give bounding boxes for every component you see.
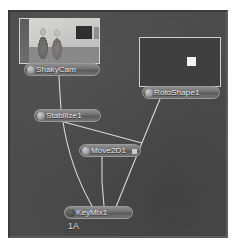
wire-stabilize1-to-keymix1: [63, 122, 92, 206]
node-move2d1[interactable]: Move2D1: [79, 144, 141, 157]
wire-stabilize1-to-move2d1: [64, 122, 142, 143]
rotoshape-thumbnail[interactable]: [139, 37, 221, 87]
node-label: Stabilize1: [46, 111, 82, 120]
node-label: RotoShape1: [154, 88, 199, 97]
node-handle-icon[interactable]: [82, 147, 90, 155]
roto-matte-square: [187, 57, 196, 66]
view-id-label: 1A: [68, 221, 79, 232]
node-handle-icon[interactable]: [145, 89, 153, 97]
node-handle-icon[interactable]: [67, 209, 75, 217]
node-shakycam[interactable]: ShakyCam: [24, 63, 100, 76]
node-stabilize1[interactable]: Stabilize1: [34, 109, 101, 122]
node-keymix1[interactable]: KeyMix1: [64, 206, 133, 219]
node-handle-icon[interactable]: [27, 66, 35, 74]
thumbnail-border: [19, 18, 100, 64]
node-graph-screenshot: ShakyCam RotoShape1 Stabilize1 Move2D1 K…: [0, 0, 236, 246]
node-label: KeyMix1: [76, 208, 107, 217]
thumbnail-border: [139, 37, 221, 87]
node-rotoshape1[interactable]: RotoShape1: [142, 86, 220, 99]
node-state-chip-icon[interactable]: [132, 149, 137, 154]
shakycam-thumbnail[interactable]: [19, 18, 100, 64]
wire-move2d1-to-keymix1: [102, 157, 104, 206]
node-handle-icon[interactable]: [37, 112, 45, 120]
node-graph-canvas[interactable]: ShakyCam RotoShape1 Stabilize1 Move2D1 K…: [8, 10, 228, 238]
node-label: Move2D1: [91, 146, 126, 155]
wire-shakycam-to-stabilize1: [59, 76, 61, 109]
node-label: ShakyCam: [36, 65, 76, 74]
